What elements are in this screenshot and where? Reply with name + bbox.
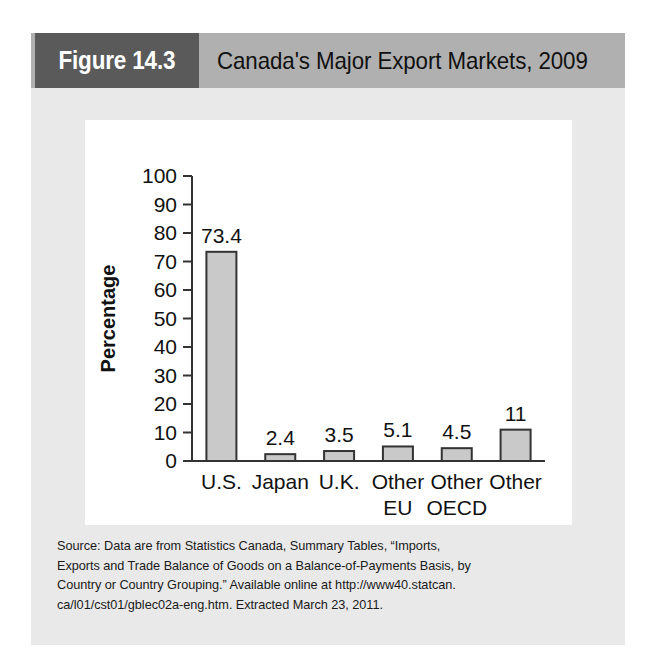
- source-line: Source: Data are from Statistics Canada,…: [57, 536, 578, 556]
- y-axis-title: Percentage: [97, 265, 119, 373]
- y-tick-label: 90: [154, 193, 177, 216]
- x-category-label: U.S.: [201, 470, 242, 493]
- y-tick-label: 70: [154, 250, 177, 273]
- figure-page: Figure 14.3 Canada's Major Export Market…: [0, 0, 656, 659]
- x-category-label: Other: [430, 470, 483, 493]
- figure-title: Canada's Major Export Markets, 2009: [217, 33, 616, 88]
- bar-value-label: 3.5: [324, 423, 353, 446]
- y-tick-label: 60: [154, 278, 177, 301]
- y-tick-label: 10: [154, 421, 177, 444]
- bar: [501, 430, 531, 461]
- bar: [206, 252, 236, 461]
- bar: [324, 451, 354, 461]
- y-tick-label: 100: [142, 164, 177, 187]
- bar: [265, 454, 295, 461]
- source-line: Exports and Trade Balance of Goods on a …: [57, 556, 578, 576]
- bar-value-label: 11: [505, 402, 527, 425]
- x-category-label: Other: [489, 470, 542, 493]
- figure-title-label: Canada's Major Export Markets, 2009: [217, 47, 588, 75]
- y-tick-label: 80: [154, 221, 177, 244]
- source-line: Country or Country Grouping.” Available …: [57, 575, 578, 595]
- figure-header-band: Figure 14.3 Canada's Major Export Market…: [31, 33, 625, 88]
- bar: [383, 446, 413, 461]
- y-tick-label: 30: [154, 364, 177, 387]
- figure-number-tag: Figure 14.3: [35, 33, 199, 88]
- bar-chart: 0102030405060708090100Percentage73.4U.S.…: [85, 120, 572, 525]
- y-tick-label: 50: [154, 307, 177, 330]
- bar-value-label: 73.4: [201, 224, 242, 247]
- figure-number-label: Figure 14.3: [59, 46, 176, 75]
- bar-value-label: 4.5: [442, 420, 471, 443]
- chart-plot-card: 0102030405060708090100Percentage73.4U.S.…: [85, 120, 572, 525]
- x-category-label: OECD: [426, 496, 487, 519]
- y-tick-label: 20: [154, 392, 177, 415]
- x-category-label: Other: [372, 470, 425, 493]
- y-tick-label: 40: [154, 335, 177, 358]
- x-category-label: EU: [383, 496, 412, 519]
- x-category-label: U.K.: [319, 470, 360, 493]
- figure-block: Figure 14.3 Canada's Major Export Market…: [31, 33, 625, 645]
- bar-value-label: 5.1: [383, 418, 412, 441]
- y-tick-label: 0: [165, 449, 177, 472]
- x-category-label: Japan: [252, 470, 309, 493]
- bar: [442, 448, 472, 461]
- bar-value-label: 2.4: [266, 426, 296, 449]
- source-line: ca/l01/cst01/gblec02a-eng.htm. Extracted…: [57, 595, 578, 615]
- source-note: Source: Data are from Statistics Canada,…: [57, 536, 605, 614]
